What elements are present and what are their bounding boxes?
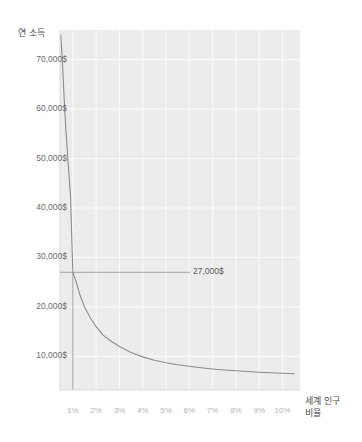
chart-canvas — [0, 0, 362, 442]
x-tick-label: 4% — [130, 406, 156, 415]
x-tick-label: 7% — [200, 406, 226, 415]
y-tick-label: 30,000$ — [11, 251, 67, 261]
y-tick-label: 70,000$ — [11, 54, 67, 64]
x-tick-label: 10% — [270, 406, 296, 415]
x-tick-label: 6% — [176, 406, 202, 415]
y-axis-title: 연 소득 — [18, 26, 45, 39]
x-tick-label: 5% — [153, 406, 179, 415]
x-tick-label: 3% — [106, 406, 132, 415]
income-distribution-chart: 연 소득 세계 인구 비율 27,000$ 10,000$20,000$30,0… — [0, 0, 362, 442]
y-tick-label: 60,000$ — [11, 103, 67, 113]
y-tick-label: 10,000$ — [11, 350, 67, 360]
annotation-27000-label: 27,000$ — [193, 266, 224, 276]
x-tick-label: 8% — [223, 406, 249, 415]
x-axis-title: 세계 인구 비율 — [305, 396, 361, 419]
y-tick-label: 40,000$ — [11, 202, 67, 212]
y-tick-label: 20,000$ — [11, 301, 67, 311]
x-tick-label: 2% — [83, 406, 109, 415]
x-tick-label: 1% — [60, 406, 86, 415]
x-tick-label: 9% — [246, 406, 272, 415]
y-tick-label: 50,000$ — [11, 153, 67, 163]
